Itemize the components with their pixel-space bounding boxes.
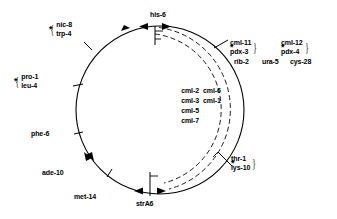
upper-left-arrow — [121, 25, 130, 31]
marker-label-trp-4: trp-4 — [56, 29, 72, 38]
main-chromosome-circle — [76, 26, 244, 194]
tick-trp4 — [84, 42, 92, 50]
asterisk-cml11-pdx3: * — [230, 43, 234, 52]
brace-thr1-lys10: { — [253, 159, 256, 168]
marker-label-met-14: met-14 — [74, 192, 96, 201]
marker-label-cml-2: cml-2 — [163, 86, 199, 95]
marker-group-cml12-pdx4: cml-12 pdx-4 { * — [281, 38, 310, 56]
brace-cml11-pdx3: { — [254, 43, 257, 52]
tick-met14 — [107, 169, 112, 177]
marker-label-phe-6: phe-6 — [31, 129, 49, 138]
brace-cml12-pdx4: { — [305, 43, 308, 52]
asterisk-thr1-lys10: * — [231, 159, 235, 168]
marker-label-leu-4: leu-4 — [21, 81, 38, 90]
brace-nic8-trp4: { — [50, 25, 53, 34]
marker-label-pro-1: pro-1 — [21, 72, 38, 81]
marker-label-his-6: his-6 — [150, 10, 166, 19]
strA6-arrow-left — [134, 188, 143, 195]
marker-group-thr1-lys10: thr-1 lys-10 { * — [231, 154, 258, 172]
genetic-map-figure: his-6 strA6 * { nic-8 trp-4 * { pro-1 le… — [0, 0, 337, 219]
marker-label-cml-7: cml-7 — [163, 116, 199, 125]
brace-pro1-leu4: { — [15, 77, 18, 86]
his6-arrow-right — [162, 23, 171, 30]
marker-label-ade-10: ade-10 — [42, 168, 64, 177]
marker-label-cys-28: cys-28 — [290, 57, 311, 66]
marker-group-cml11-pdx3: cml-11 pdx-3 { * — [230, 38, 258, 56]
marker-label-cml-6: cml-6 — [203, 86, 221, 95]
his6-arrow-left — [139, 23, 148, 30]
marker-label-ura-5: ura-5 — [262, 57, 279, 66]
marker-label-rib-2: rib-2 — [234, 57, 249, 66]
tick-leu4 — [73, 84, 83, 86]
marker-group-pro1-leu4: * { pro-1 leu-4 — [14, 72, 38, 90]
marker-label-strA6: strA6 — [136, 199, 153, 208]
cml11-radial-tick — [214, 40, 228, 48]
marker-group-nic8-trp4: * { nic-8 trp-4 — [49, 20, 72, 38]
marker-label-nic-8: nic-8 — [56, 20, 72, 29]
marker-label-cml-3: cml-3 — [163, 96, 199, 105]
asterisk-cml12-pdx4: * — [281, 43, 285, 52]
marker-label-cml-5: cml-5 — [163, 106, 199, 115]
marker-label-cml-1: cml-1 — [203, 96, 221, 105]
